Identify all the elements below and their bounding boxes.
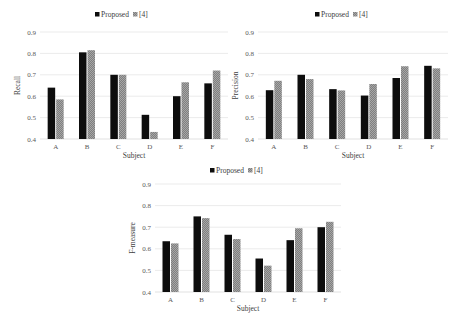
bar-proposed [287,240,295,292]
f-measure-chart: Proposed[4]0.40.50.60.70.80.9F-measureAB… [115,163,345,326]
bar-proposed [424,66,432,139]
bar-ref4 [401,66,409,139]
bar-proposed [48,88,56,139]
bar-ref4 [295,228,303,292]
bar-proposed [204,83,212,139]
y-tick-label: 0.9 [245,29,254,37]
y-tick-label: 0.8 [245,50,254,58]
bar-group-c [329,89,345,139]
bar-group-f [424,66,440,139]
bar-proposed [256,259,264,292]
x-tick-label: A [53,143,58,151]
y-tick-label: 0.7 [27,71,36,79]
legend-swatch-ref4 [248,168,253,173]
y-tick-label: 0.4 [245,136,254,144]
bar-proposed [79,52,87,139]
bar-group-b [194,216,210,292]
y-tick-label: 0.5 [27,114,36,122]
x-tick-label: F [210,143,214,151]
bar-group-a [266,81,282,139]
legend-label-proposed: Proposed [101,10,129,19]
x-axis-title: Subject [123,151,146,160]
bar-ref4 [264,266,272,292]
legend-label-proposed: Proposed [321,10,349,19]
bar-ref4 [202,218,210,292]
precision-chart-svg: Proposed[4]0.40.50.60.70.80.9PrecisionAB… [230,0,461,163]
x-tick-label: A [271,143,276,151]
bar-proposed [142,115,150,139]
bar-proposed [194,216,202,292]
precision-chart: Proposed[4]0.40.50.60.70.80.9PrecisionAB… [230,0,461,163]
x-axis-title: Subject [342,151,365,160]
bar-group-b [298,75,314,139]
legend-swatch-proposed [210,168,215,173]
bar-proposed [393,78,401,139]
recall-chart: Proposed[4]0.40.50.60.70.80.9RecallABCDE… [0,0,230,163]
bar-ref4 [326,222,334,292]
y-tick-label: 0.9 [27,29,36,37]
y-tick-label: 0.6 [245,93,254,101]
x-tick-label: F [430,143,434,151]
f-measure-axis-title: F-measure [128,222,137,254]
legend-label-ref4: [4] [254,166,263,175]
y-tick-label: 0.6 [27,93,36,101]
bar-group-c [110,75,126,139]
legend-swatch-proposed [95,12,100,17]
bar-group-d [256,259,272,292]
recall-axis-title: Recall [13,76,22,95]
x-tick-label: E [398,143,402,151]
bar-ref4 [233,239,241,292]
bar-group-e [173,82,189,139]
y-tick-label: 0.4 [142,289,151,297]
y-tick-label: 0.7 [245,71,254,79]
legend-label-ref4: [4] [359,10,368,19]
y-tick-label: 0.9 [142,181,151,189]
bar-proposed [318,227,326,292]
legend-swatch-ref4 [133,12,138,17]
x-axis-title: Subject [237,304,260,313]
bar-ref4 [274,81,282,139]
x-tick-label: E [292,296,296,304]
x-tick-label: C [116,143,121,151]
bar-ref4 [306,79,314,139]
bar-group-d [142,115,158,139]
bar-proposed [163,241,171,292]
x-tick-label: C [335,143,340,151]
bar-proposed [298,75,306,139]
recall-chart-svg: Proposed[4]0.40.50.60.70.80.9RecallABCDE… [0,0,230,163]
bar-ref4 [88,50,96,139]
x-tick-label: D [261,296,266,304]
y-tick-label: 0.5 [142,267,151,275]
bar-proposed [110,75,118,139]
precision-axis-title: Precision [231,71,240,99]
bar-ref4 [119,75,127,139]
y-tick-label: 0.8 [142,202,151,210]
x-tick-label: B [303,143,308,151]
bar-group-e [287,228,303,292]
bar-ref4 [433,68,441,139]
y-tick-label: 0.5 [245,114,254,122]
x-tick-label: A [168,296,173,304]
bar-ref4 [182,82,190,139]
legend: Proposed[4] [210,166,263,175]
legend: Proposed[4] [95,10,148,19]
legend: Proposed[4] [315,10,368,19]
y-tick-label: 0.8 [27,50,36,58]
bar-ref4 [369,84,377,139]
bar-ref4 [56,99,64,139]
y-tick-label: 0.7 [142,224,151,232]
y-tick-label: 0.6 [142,245,151,253]
x-tick-label: B [199,296,204,304]
legend-label-ref4: [4] [139,10,148,19]
legend-label-proposed: Proposed [216,166,244,175]
bar-group-e [393,66,409,139]
bar-group-c [225,235,241,292]
x-tick-label: D [147,143,152,151]
x-tick-label: D [366,143,371,151]
legend-swatch-ref4 [353,12,358,17]
bar-group-b [79,50,95,139]
x-tick-label: C [230,296,235,304]
bar-ref4 [338,90,346,139]
bar-group-d [361,84,377,139]
x-tick-label: E [179,143,183,151]
